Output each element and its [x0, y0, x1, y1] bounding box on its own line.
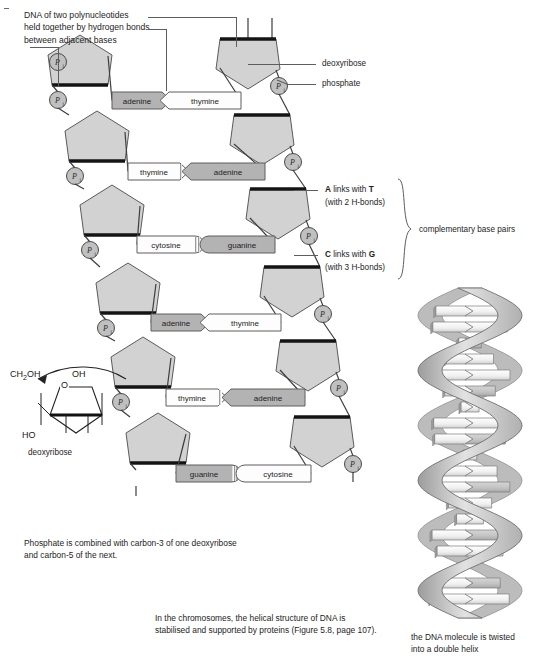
phosphate-subscript-L0: i	[63, 101, 65, 107]
molecule-ring-o-label: O	[60, 380, 69, 390]
base-label-adenine-3: adenine	[162, 319, 191, 328]
lbb-b2	[90, 258, 100, 267]
hydrogen-bonds-5	[232, 466, 236, 481]
leader-cg	[294, 255, 318, 256]
rung-stem-left-5	[176, 434, 186, 474]
base-label-thymine-4: thymine	[178, 394, 207, 403]
phosphate-subscript-R1: i	[298, 163, 300, 169]
complementary-base-pairs-label: complementary base pairs	[419, 225, 515, 234]
base-label-thymine-0: thymine	[191, 97, 220, 106]
helix-rung-cap	[459, 402, 461, 414]
phosphate-subscript-L1: i	[80, 177, 82, 183]
double-helix-illustration	[404, 288, 536, 618]
molecule-name-label: deoxyribose	[28, 448, 72, 457]
leader-deoxyribose	[248, 64, 316, 65]
deoxyribose-sugar-R5	[290, 417, 354, 467]
complementary-brace	[396, 178, 416, 282]
base-label-adenine-0: adenine	[123, 97, 152, 106]
phosphate-subscript-R0: i	[284, 87, 286, 93]
leader-note-a	[148, 17, 236, 18]
phosphate-circle-L0	[50, 92, 67, 109]
base-shape-adenine-1	[182, 163, 265, 180]
base-shape-cytosine-5	[236, 465, 311, 482]
helix-rung-cap	[430, 530, 432, 542]
base-shape-adenine-3	[151, 314, 210, 331]
rbb-a1	[290, 146, 293, 154]
rung-stem-left-1	[125, 132, 128, 172]
top-left-note: DNA of two polynucleotides held together…	[24, 9, 150, 46]
rbb-b1	[293, 170, 306, 189]
hydrogen-bonds-2	[195, 237, 200, 252]
base-shape-thymine-3	[200, 314, 281, 331]
rbb-a3	[320, 298, 323, 306]
cg-pair-sublabel: (with 3 H-bonds)	[325, 263, 385, 272]
deoxyribose-sugar-R3	[260, 267, 324, 317]
base-label-cytosine-5: cytosine	[263, 470, 293, 479]
deoxyribose-sugar-R1	[230, 115, 294, 165]
rung-stem-left-4	[166, 358, 171, 398]
helix-rung-cap	[434, 306, 436, 318]
lbb-a1	[69, 161, 75, 168]
phosphate-letter-R3: P	[319, 310, 325, 319]
phosphate-letter-R1: P	[289, 158, 295, 167]
helix-front-ribbon	[418, 288, 522, 618]
hydrogen-bonds-4	[218, 390, 222, 405]
base-label-thymine-3: thymine	[231, 319, 260, 328]
phosphate-circle-L3	[98, 320, 115, 337]
phosphate-circle-R1	[285, 154, 302, 171]
rbb-b0	[279, 94, 290, 115]
base-shape-thymine-4	[166, 389, 227, 406]
phosphate-subscript-L2: i	[95, 251, 97, 257]
rung-stem-right-5	[294, 446, 311, 474]
base-label-guanine-2: guanine	[228, 241, 257, 250]
helix-caption: the DNA molecule is twisted into a doubl…	[411, 631, 515, 656]
phosphate-circle-R2	[301, 228, 318, 245]
phosphate-letter-L1: P	[71, 172, 77, 181]
lbb-b1	[75, 184, 84, 189]
phosphate-letter-R5: P	[349, 460, 355, 469]
rung-stem-right-1	[234, 144, 265, 172]
base-shape-guanine-5	[176, 465, 241, 482]
leader-note-c-v	[58, 47, 59, 87]
phosphate-subscript-R2: i	[314, 237, 316, 243]
lbb-a3	[100, 313, 106, 320]
leader-phosphate-diag	[277, 80, 289, 85]
base-shape-adenine-0	[112, 92, 171, 109]
phosphate-circle-L2	[82, 242, 99, 259]
lbb-b3	[106, 336, 115, 341]
deoxyribose-callout-label: deoxyribose	[322, 59, 366, 68]
base-shape-thymine-0	[160, 92, 241, 109]
molecule-ho-label: HO	[22, 430, 36, 440]
lbb-a2	[84, 235, 90, 242]
phosphate-circle-L1	[67, 168, 84, 185]
rung-stem-right-4	[280, 370, 305, 398]
deoxyribose-sugar-L5	[126, 413, 190, 463]
helix-rung-cap	[431, 322, 433, 334]
phosphate-letter-R0: P	[275, 82, 281, 91]
phosphate-circle-R3	[315, 306, 332, 323]
base-label-guanine-5: guanine	[190, 470, 219, 479]
at-mid: links with	[331, 185, 369, 194]
base-label-thymine-1: thymine	[140, 168, 169, 177]
rbb-a2	[306, 220, 309, 228]
rbb-b4	[339, 396, 350, 417]
base-label-adenine-4: adenine	[254, 394, 283, 403]
at-base-t: T	[369, 185, 374, 194]
lbb-b0	[58, 108, 69, 115]
rung-stem-right-2	[250, 218, 275, 245]
phosphate-circle-R4	[331, 380, 348, 397]
phosphate-letter-R4: P	[335, 384, 341, 393]
deoxyribose-sugar-L2	[80, 185, 144, 235]
deoxyribose-sugar-R2	[246, 189, 310, 239]
at-pair-sublabel: (with 2 H-bonds)	[325, 198, 385, 207]
base-shape-guanine-2	[200, 236, 275, 253]
crop-tick-mark	[4, 8, 9, 9]
base-label-adenine-1: adenine	[214, 168, 243, 177]
rbb-b3	[323, 322, 336, 341]
helix-rung-cap	[433, 434, 435, 446]
deoxyribose-sugar-R4	[276, 341, 340, 391]
rung-stem-right-0	[220, 68, 241, 101]
phosphate-letter-L3: P	[102, 324, 108, 333]
chromosome-note: In the chromosomes, the helical structur…	[155, 612, 377, 637]
deoxyribose-sugar-L1	[65, 111, 129, 161]
